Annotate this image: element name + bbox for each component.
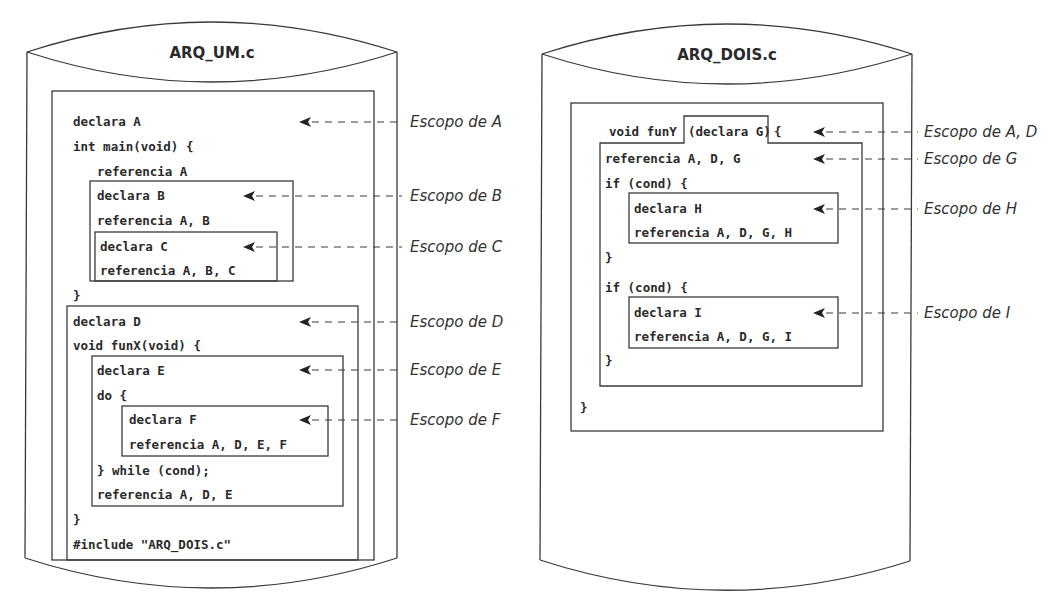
code-line: declara D — [73, 314, 141, 330]
code-line: referencia A, D, G, I — [634, 329, 792, 345]
scope-arrow-c — [243, 242, 402, 252]
code-line: } — [605, 250, 613, 266]
scope-arrow-f — [299, 415, 402, 425]
code-line: declara E — [97, 363, 165, 379]
scope-label-d: Escopo de D — [410, 313, 503, 331]
scope-label-a: Escopo de A — [410, 113, 502, 131]
file-title-left: ARQ_UM.c — [169, 44, 254, 62]
code-line: declara F — [129, 412, 197, 428]
code-line: referencia A, D, G — [605, 151, 740, 167]
code-line: declara H — [634, 201, 702, 217]
code-line: void funY — [609, 124, 677, 140]
scope-arrow-a — [299, 117, 402, 127]
code-line: referencia A, B, C — [100, 263, 235, 279]
scope-label-c: Escopo de C — [410, 238, 502, 256]
code-line: { — [774, 124, 782, 140]
scope-label-i: Escopo de I — [924, 304, 1010, 322]
code-line: declara I — [634, 305, 702, 321]
code-line: } — [73, 288, 81, 304]
scope-arrow-ad — [813, 127, 918, 137]
file-title-right: ARQ_DOIS.c — [677, 46, 777, 64]
scope-arrow-b — [243, 191, 402, 201]
code-line: declara B — [97, 188, 165, 204]
code-line: referencia A, B — [97, 213, 210, 229]
diagram-graphics — [0, 0, 1063, 608]
scope-arrow-d — [299, 317, 402, 327]
code-line: } — [605, 353, 613, 369]
scope-label-b: Escopo de B — [410, 187, 502, 205]
scope-label-e: Escopo de E — [410, 361, 501, 379]
scope-label-f: Escopo de F — [410, 411, 500, 429]
code-line: } — [580, 400, 588, 416]
file-cylinder-left — [25, 22, 397, 588]
code-line: int main(void) { — [73, 139, 193, 155]
code-line: referencia A, D, G, H — [634, 225, 792, 241]
scope-arrow-i — [813, 308, 918, 318]
code-line: if (cond) { — [605, 176, 688, 192]
scope-arrow-h — [813, 204, 918, 214]
code-line: do { — [97, 388, 127, 404]
code-line: #include "ARQ_DOIS.c" — [73, 537, 231, 553]
scope-label-ad: Escopo de A, D — [924, 123, 1037, 141]
code-line: declara C — [100, 239, 168, 255]
code-line: if (cond) { — [605, 280, 688, 296]
code-line: void funX(void) { — [73, 338, 201, 354]
code-line: } while (cond); — [97, 463, 210, 479]
code-line: (declara G) — [688, 124, 771, 140]
scope-arrow-g — [813, 154, 918, 164]
scope-diagram: ARQ_UM.c declara A int main(void) { refe… — [0, 0, 1063, 608]
file-cylinder-right — [540, 24, 912, 590]
code-line: referencia A, D, E — [97, 487, 232, 503]
scope-label-g: Escopo de G — [924, 150, 1017, 168]
code-line: referencia A, D, E, F — [129, 437, 287, 453]
scope-label-h: Escopo de H — [924, 200, 1017, 218]
code-line: } — [73, 512, 81, 528]
code-line: declara A — [73, 114, 141, 130]
code-line: referencia A — [97, 164, 187, 180]
scope-arrow-e — [299, 365, 402, 375]
